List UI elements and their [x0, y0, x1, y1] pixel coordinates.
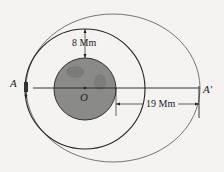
dim-label-19mm: 19 Mm: [146, 99, 175, 109]
spacecraft-icon: [24, 82, 28, 92]
arrow-icon: [84, 29, 87, 33]
arrow-icon: [84, 54, 87, 58]
arrow-icon: [116, 103, 120, 106]
label-A-prime: A′: [203, 84, 212, 95]
label-O: O: [80, 92, 88, 103]
dim-label-8mm: 8 Mm: [72, 38, 96, 48]
planet-shading: [66, 66, 84, 78]
orbit-diagram: [0, 0, 224, 172]
center-point: [84, 87, 87, 90]
label-A: A: [10, 78, 17, 89]
